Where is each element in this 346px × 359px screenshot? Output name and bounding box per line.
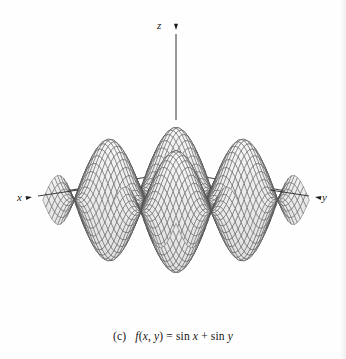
figure-caption: (c) f(x, y) = sin x + sin y <box>0 330 346 342</box>
x-axis-label: x <box>17 192 22 203</box>
caption-index: (c) <box>113 330 126 342</box>
figure-container: z x y (c) f(x, y) = sin x + sin y <box>0 0 346 359</box>
y-axis-arrowhead <box>315 196 321 200</box>
z-axis-label: z <box>157 20 161 31</box>
z-axis-arrowhead <box>174 24 178 30</box>
x-axis-arrowhead <box>26 196 32 200</box>
y-axis-label: y <box>322 192 327 203</box>
surface-mesh-layer <box>43 128 309 273</box>
surface-plot <box>0 0 346 359</box>
